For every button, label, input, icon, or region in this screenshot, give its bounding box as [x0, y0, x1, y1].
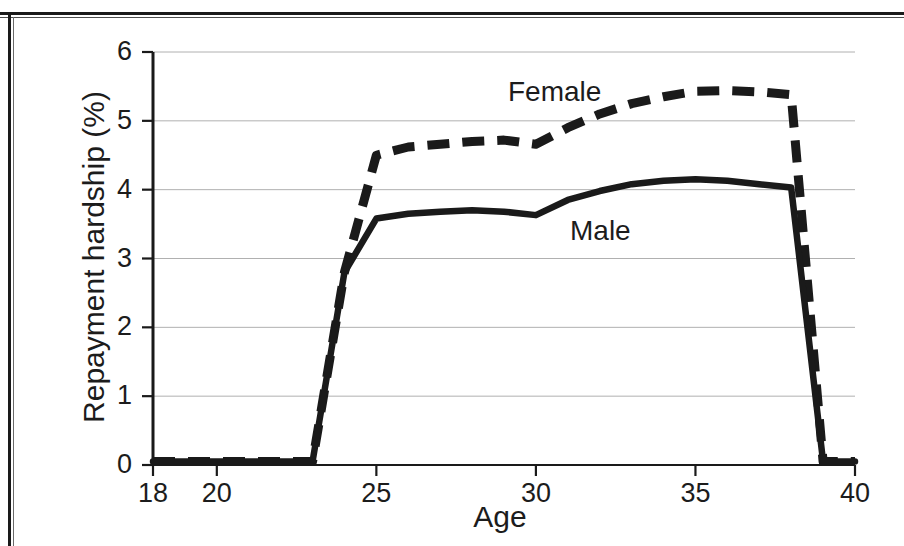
data-series-group	[153, 91, 855, 462]
series-line-female	[153, 91, 855, 462]
x-axis-tick-label: 20	[177, 480, 257, 507]
x-axis-title: Age	[420, 500, 580, 534]
chart-figure: 0123456 182025303540 Repayment hardship …	[0, 0, 904, 546]
line-chart-plot	[0, 0, 904, 546]
series-line-male	[153, 179, 855, 461]
series-label-male: Male	[570, 215, 631, 247]
y-axis-ticks	[142, 52, 153, 465]
x-axis-tick-label: 25	[336, 480, 416, 507]
y-axis-title: Repayment hardship (%)	[77, 47, 111, 467]
x-axis-tick-label: 40	[815, 480, 895, 507]
gridlines	[153, 52, 855, 396]
x-axis-tick-label: 35	[655, 480, 735, 507]
x-axis-ticks	[153, 465, 855, 476]
series-label-female: Female	[508, 76, 601, 108]
